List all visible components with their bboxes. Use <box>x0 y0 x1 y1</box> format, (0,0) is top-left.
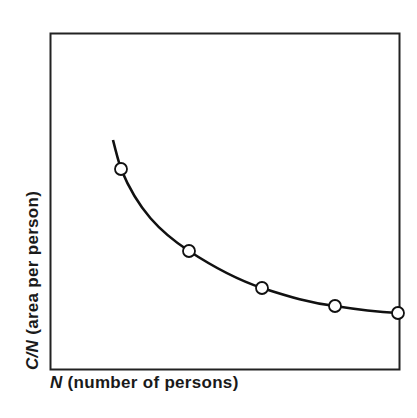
data-points <box>115 163 404 319</box>
x-axis-label: N (number of persons) <box>50 373 239 393</box>
data-point <box>115 163 127 175</box>
data-point <box>329 300 341 312</box>
y-axis-label: C/N (area per person) <box>23 191 43 370</box>
x-axis-variable: N <box>50 373 63 392</box>
y-axis-description: (area per person) <box>23 191 42 340</box>
chart-canvas <box>0 0 417 418</box>
y-axis-variable: C/N <box>23 340 42 370</box>
data-point <box>256 282 268 294</box>
x-axis-description: (number of persons) <box>63 373 239 392</box>
data-point <box>183 245 195 257</box>
data-point <box>392 307 404 319</box>
plot-frame <box>51 34 400 370</box>
